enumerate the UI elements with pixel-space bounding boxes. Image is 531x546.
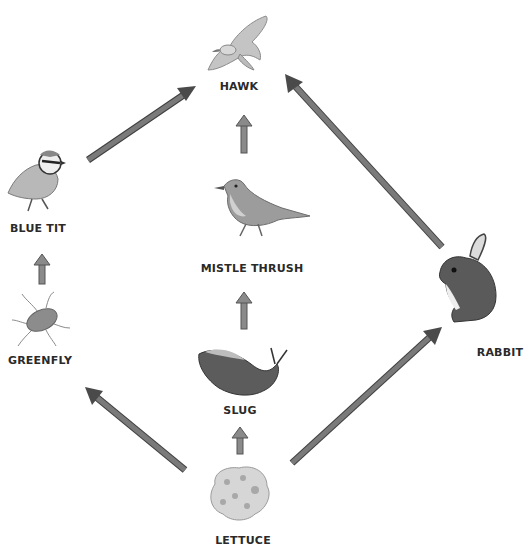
slug-icon — [195, 342, 295, 402]
arrow-lettuce-to-slug — [232, 427, 248, 454]
organism-label-lettuce: LETTUCE — [215, 534, 271, 546]
mistle-thrush-icon — [210, 172, 315, 242]
rabbit-icon — [432, 230, 502, 330]
organism-label-mistle-thrush: MISTLE THRUSH — [201, 262, 304, 275]
arrow-lettuce-to-rabbit — [292, 327, 442, 463]
arrow-bluetit-to-hawk — [88, 86, 196, 160]
hawk-icon — [200, 10, 280, 82]
arrow-greenfly-to-bluetit — [34, 254, 50, 284]
organism-label-slug: SLUG — [223, 404, 256, 417]
lettuce-icon — [205, 462, 275, 524]
arrow-lettuce-to-greenfly — [85, 387, 185, 470]
organism-label-rabbit: RABBIT — [477, 346, 524, 359]
food-web-diagram: HAWK BLUE TIT MISTLE THRUSH GREENFLY — [0, 0, 531, 546]
arrow-slug-to-thrush — [236, 292, 252, 329]
blue-tit-icon — [2, 143, 70, 215]
arrow-thrush-to-hawk — [236, 115, 252, 153]
organism-label-greenfly: GREENFLY — [8, 354, 72, 367]
organism-label-hawk: HAWK — [220, 80, 259, 93]
greenfly-icon — [10, 290, 72, 348]
organism-label-blue-tit: BLUE TIT — [10, 222, 66, 235]
